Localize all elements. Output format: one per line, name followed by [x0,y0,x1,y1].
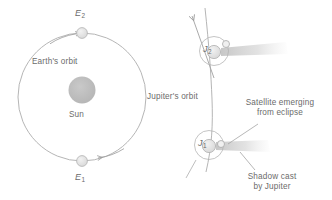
earth-orbit-group [18,28,146,167]
leader-line-shadow-cast [240,152,255,170]
label-jupiter-orbit: Jupiter's orbit [147,92,198,102]
label-j2-base: J [203,44,208,54]
annotation-shadow-cast-line2: by Jupiter [226,182,318,192]
shadow-cone-j2 [221,42,288,56]
jupiter-system-j2 [200,37,289,66]
label-e1-sub: 1 [81,176,85,183]
orbit-direction-arrow-e1 [98,149,124,158]
sun-disc [69,77,96,104]
label-jupiter-position-1: J1 [198,138,206,149]
annotation-shadow-cast-line1: Shadow cast [226,172,318,182]
earth-body-e1 [77,156,88,167]
label-sun: Sun [69,110,84,120]
annotation-satellite-emerging: Satellite emerging from eclipse [232,98,328,118]
annotation-satellite-emerging-line2: from eclipse [232,108,328,118]
earth-body-e2 [77,28,88,39]
leader-line-shadow-tick-left [186,160,196,178]
annotation-shadow-cast: Shadow cast by Jupiter [226,172,318,192]
label-j1-base: J [198,138,203,148]
label-e2-sub: 2 [81,12,85,19]
roemer-light-speed-diagram: E2 Earth's orbit Sun E1 Jupiter's orbit … [0,0,332,200]
label-earth-orbit: Earth's orbit [32,57,78,67]
label-j2-sub: 2 [208,48,212,55]
satellite-body-j1 [218,141,225,148]
orbit-direction-arrow-e2 [50,34,76,44]
label-jupiter-position-2: J2 [203,44,211,55]
label-earth-position-1: E1 [75,172,85,183]
label-earth-position-2: E2 [75,8,85,19]
annotation-satellite-emerging-line1: Satellite emerging [232,98,328,108]
satellite-body-j2 [223,41,230,48]
label-j1-sub: 1 [203,142,207,149]
